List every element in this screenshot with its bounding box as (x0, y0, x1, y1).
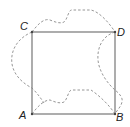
dashed-curve-top (32, 10, 115, 32)
vertex-d-dot (114, 31, 116, 33)
square-diagram: C D A B (0, 0, 130, 127)
square-abdc (32, 32, 115, 114)
label-c: C (20, 20, 28, 32)
label-a: A (18, 109, 26, 121)
vertex-a-dot (31, 113, 33, 115)
label-d: D (117, 26, 125, 38)
dashed-curve-right (98, 32, 122, 114)
dashed-curve-left (12, 32, 44, 103)
dashed-curve-bottom (32, 90, 115, 114)
label-b: B (116, 111, 123, 123)
vertex-c-dot (31, 31, 33, 33)
